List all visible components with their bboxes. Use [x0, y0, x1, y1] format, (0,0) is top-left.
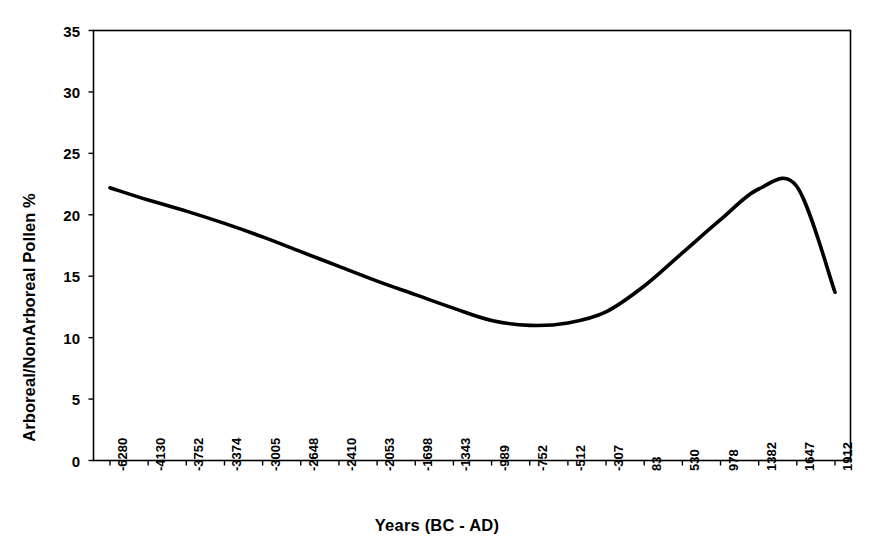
y-tick-label: 20	[50, 206, 80, 223]
x-tick-label: -307	[611, 444, 626, 470]
y-tick-label: 30	[50, 83, 80, 100]
x-tick-label: 1647	[802, 442, 817, 471]
x-tick-label: -2648	[306, 437, 321, 470]
x-tick-label: 83	[649, 456, 664, 470]
pollen-percentage-line-chart: Arboreal/NonArboreal Pollen % 0510152025…	[0, 0, 874, 555]
y-tick-label: 15	[50, 268, 80, 285]
y-tick-label: 35	[50, 22, 80, 39]
x-tick-label: 1382	[764, 442, 779, 471]
x-tick-label: -3005	[268, 437, 283, 470]
x-tick-label: -3374	[229, 437, 244, 470]
x-tick-label: -752	[535, 444, 550, 470]
x-tick-label: -989	[497, 444, 512, 470]
x-tick-label: 978	[726, 449, 741, 471]
x-tick-label: 530	[687, 449, 702, 471]
y-tick-label: 10	[50, 329, 80, 346]
x-tick-label: -1698	[420, 437, 435, 470]
y-tick-label: 0	[50, 452, 80, 469]
x-tick-label: 1912	[840, 442, 855, 471]
x-tick-label: -4130	[153, 437, 168, 470]
x-tick-label: -2053	[382, 437, 397, 470]
x-tick-label: -6280	[115, 437, 130, 470]
x-tick-label: -1343	[458, 437, 473, 470]
y-tick-label: 25	[50, 145, 80, 162]
y-tick-label: 5	[50, 391, 80, 408]
x-tick-label: -512	[573, 444, 588, 470]
x-tick-label: -3752	[191, 437, 206, 470]
plot-area-frame	[94, 31, 851, 461]
chart-canvas	[0, 0, 874, 555]
x-axis-title: Years (BC - AD)	[0, 516, 874, 535]
x-tick-label: -2410	[344, 437, 359, 470]
